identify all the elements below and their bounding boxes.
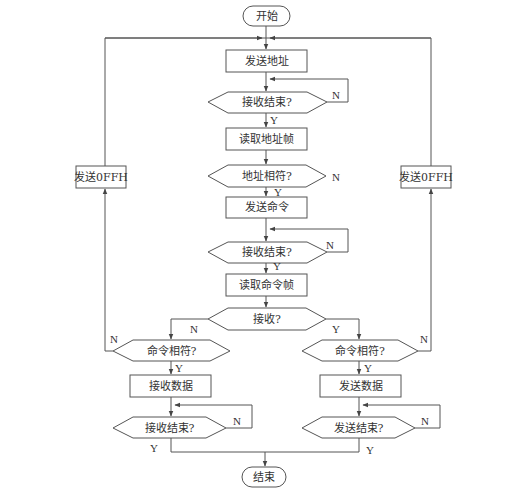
read-address-frame-label: 读取地址帧 <box>239 132 294 146</box>
recv-done-1-label: 接收结束? <box>242 95 292 109</box>
send-address-label: 发送地址 <box>245 54 289 68</box>
receive-data-label: 接收数据 <box>149 379 193 393</box>
edge-label-n: N <box>421 415 429 427</box>
receive-data-node: 接收数据 <box>130 375 211 397</box>
send-command-label: 发送命令 <box>245 200 289 214</box>
edge-label-y: Y <box>366 444 374 456</box>
send-data-node: 发送数据 <box>320 375 401 397</box>
recv-done-3-node: 接收结束? <box>113 417 226 438</box>
edge-label-n: N <box>190 323 198 335</box>
send-done-node: 发送结束? <box>302 417 415 438</box>
send-0ffh-right-label: 发送0FFH <box>399 170 453 184</box>
edge-label-y: Y <box>273 260 281 272</box>
edge-label-n: N <box>332 171 340 183</box>
edge-label-y: Y <box>364 362 372 374</box>
edge-label-y: Y <box>274 186 282 198</box>
start-node: 开始 <box>243 6 290 26</box>
address-match-label: 地址相符? <box>242 169 292 183</box>
send-0ffh-right-node: 发送0FFH <box>399 166 453 188</box>
receive-decision-node: 接收? <box>208 308 326 330</box>
edge-label-n: N <box>332 89 340 101</box>
send-0ffh-left-node: 发送0FFH <box>74 166 128 188</box>
end-node: 结束 <box>242 467 286 487</box>
recv-done-2-label: 接收结束? <box>242 245 292 259</box>
edge-label-y: Y <box>332 323 340 335</box>
send-0ffh-left-label: 发送0FFH <box>74 170 128 184</box>
cmd-match-right-label: 命令相符? <box>335 344 385 358</box>
receive-decision-label: 接收? <box>253 312 281 326</box>
send-done-label: 发送结束? <box>334 421 384 435</box>
send-command-node: 发送命令 <box>226 197 307 218</box>
end-label: 结束 <box>253 471 275 484</box>
flowchart: 开始 发送地址 接收结束? 读取地址帧 地址相符? 发送命令 接收结束? 读取命… <box>0 0 529 498</box>
recv-done-2-node: 接收结束? <box>208 242 327 263</box>
recv-done-1-node: 接收结束? <box>208 92 327 113</box>
read-address-frame-node: 读取地址帧 <box>226 128 307 150</box>
edge-label-n: N <box>233 415 241 427</box>
send-data-label: 发送数据 <box>339 379 383 393</box>
read-command-frame-node: 读取命令帧 <box>226 274 307 296</box>
edge-label-y: Y <box>150 442 158 454</box>
edge-label-n: N <box>420 333 428 345</box>
edge-label-n: N <box>326 239 334 251</box>
recv-done-3-label: 接收结束? <box>145 421 195 435</box>
edge-label-y: Y <box>270 114 278 126</box>
edge-label-n: N <box>110 333 118 345</box>
cmd-match-left-node: 命令相符? <box>113 340 230 361</box>
start-label: 开始 <box>256 9 278 23</box>
cmd-match-right-node: 命令相符? <box>302 340 418 361</box>
address-match-node: 地址相符? <box>208 165 326 187</box>
read-command-frame-label: 读取命令帧 <box>239 278 294 292</box>
edge-label-y: Y <box>175 362 183 374</box>
send-address-node: 发送地址 <box>226 50 307 72</box>
cmd-match-left-label: 命令相符? <box>147 344 197 358</box>
